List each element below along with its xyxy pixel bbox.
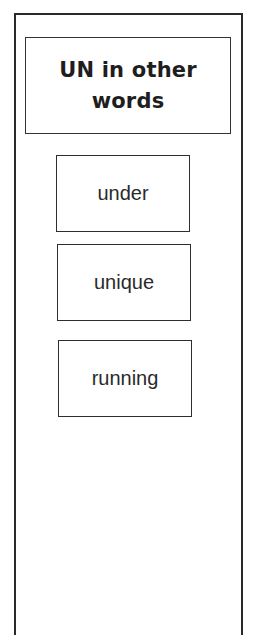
title-box: UN in other words <box>25 37 231 134</box>
title-line-2: words <box>59 86 197 117</box>
word-label: under <box>97 182 148 205</box>
word-card-under: under <box>56 155 190 232</box>
word-label: unique <box>94 271 154 294</box>
worksheet-title: UN in other words <box>59 55 197 117</box>
word-card-unique: unique <box>57 244 191 321</box>
word-label: running <box>92 367 159 390</box>
title-line-1: UN in other <box>59 55 197 86</box>
word-card-running: running <box>58 340 192 417</box>
